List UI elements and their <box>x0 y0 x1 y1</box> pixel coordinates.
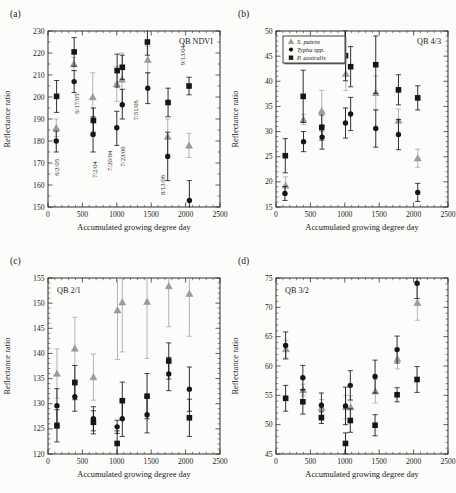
data-point <box>145 86 150 91</box>
legend-item-label: P. australis <box>296 54 326 61</box>
x-tick-label: 1000 <box>109 457 124 466</box>
data-point <box>71 79 76 84</box>
data-point <box>89 94 96 100</box>
x-tick-label: 1000 <box>337 210 352 219</box>
data-point <box>54 403 59 408</box>
data-point <box>372 374 377 379</box>
data-point <box>396 87 402 93</box>
y-tick-label: 150 <box>33 203 45 212</box>
panel-c-chart: (c)1201251301351401451501550500100015002… <box>0 247 228 493</box>
data-point <box>319 403 324 408</box>
data-point <box>282 191 287 196</box>
panel-b: (b)152025303540455005001000150020002500R… <box>228 0 456 247</box>
data-point <box>300 94 306 100</box>
y-tick-label: 145 <box>33 324 45 333</box>
panel-a: (a)1501601701801902002102202300500100015… <box>0 0 228 247</box>
data-point <box>283 395 289 401</box>
y-tick-label: 50 <box>265 420 273 429</box>
y-tick-label: 150 <box>33 299 45 308</box>
data-point <box>343 403 348 408</box>
x-tick-label: 0 <box>274 210 278 219</box>
data-point <box>373 62 379 68</box>
x-axis-label: Accumulated growing degree day <box>77 470 191 479</box>
panel-label: (c) <box>10 256 21 267</box>
data-point <box>120 65 126 71</box>
corner-label: QB NDVI <box>179 37 213 46</box>
data-point <box>145 39 151 45</box>
data-point <box>348 383 353 388</box>
series-circle <box>54 71 193 221</box>
y-axis-label: Reflectance ratio <box>3 338 12 395</box>
panel-label: (a) <box>10 9 21 20</box>
x-tick-label: 500 <box>77 210 89 219</box>
y-tick-label: 170 <box>33 159 45 168</box>
x-tick-label: 2000 <box>406 210 421 219</box>
data-point <box>114 68 120 74</box>
data-point <box>71 345 78 351</box>
x-tick-label: 500 <box>305 457 317 466</box>
data-point <box>72 380 78 386</box>
data-point <box>348 111 353 116</box>
data-point <box>165 154 170 159</box>
data-point <box>144 56 151 62</box>
data-point <box>54 138 59 143</box>
data-point <box>119 299 126 305</box>
data-point <box>283 343 288 348</box>
y-tick-label: 230 <box>33 27 45 36</box>
y-tick-label: 25 <box>265 152 273 161</box>
data-point <box>120 398 126 404</box>
legend: S. patensTypha spp.P. australis <box>283 36 346 64</box>
y-tick-label: 200 <box>33 93 45 102</box>
corner-label: QB 3/2 <box>285 286 309 295</box>
y-tick-label: 75 <box>265 274 273 283</box>
data-point <box>319 125 325 131</box>
x-tick-label: 0 <box>274 457 278 466</box>
y-tick-label: 135 <box>33 374 45 383</box>
data-point <box>300 399 306 405</box>
data-point <box>165 283 172 289</box>
data-point <box>319 415 325 421</box>
date-annotation: 9/13/04 <box>179 44 186 65</box>
data-point <box>71 49 77 55</box>
y-tick-label: 50 <box>265 27 273 36</box>
corner-label: QB 4/3 <box>417 37 441 46</box>
x-tick-label: 1500 <box>372 457 387 466</box>
y-tick-label: 35 <box>265 102 273 111</box>
data-point <box>415 190 420 195</box>
y-tick-label: 220 <box>33 49 45 58</box>
data-point <box>414 281 419 286</box>
data-point <box>301 139 306 144</box>
y-axis-label: Reflectance ratio <box>3 91 12 148</box>
data-point <box>53 370 60 376</box>
y-tick-label: 70 <box>265 303 273 312</box>
data-point <box>120 102 125 107</box>
data-point <box>54 423 60 429</box>
x-tick-label: 1000 <box>337 457 352 466</box>
date-annotation: 7/23/06 <box>119 146 126 167</box>
x-tick-label: 1000 <box>109 210 124 219</box>
date-annotation: 7/31/06 <box>132 99 139 120</box>
data-point <box>165 100 171 106</box>
data-point <box>348 418 354 424</box>
legend-item-label: S. patens <box>297 38 321 45</box>
x-tick-label: 1500 <box>144 210 159 219</box>
data-point <box>396 132 401 137</box>
y-tick-label: 180 <box>33 137 45 146</box>
y-tick-label: 30 <box>265 127 273 136</box>
data-point <box>318 108 325 114</box>
panel-label: (b) <box>238 9 249 20</box>
x-axis-label: Accumulated growing degree day <box>305 223 419 232</box>
y-tick-label: 15 <box>265 203 273 212</box>
panel-c: (c)1201251301351401451501550500100015002… <box>0 247 228 493</box>
data-point <box>187 386 192 391</box>
data-point <box>414 377 420 383</box>
date-annotation: 7/20/04 <box>106 150 113 171</box>
y-tick-label: 120 <box>33 450 45 459</box>
data-point <box>282 182 289 188</box>
x-tick-label: 2500 <box>440 210 455 219</box>
data-point <box>54 94 60 100</box>
panel-d-chart: (d)4550556065707505001000150020002500Ref… <box>228 247 456 493</box>
date-annotation: 8/13/06 <box>159 174 166 195</box>
x-axis-label: Accumulated growing degree day <box>305 470 419 479</box>
legend-marker-square <box>289 56 293 60</box>
